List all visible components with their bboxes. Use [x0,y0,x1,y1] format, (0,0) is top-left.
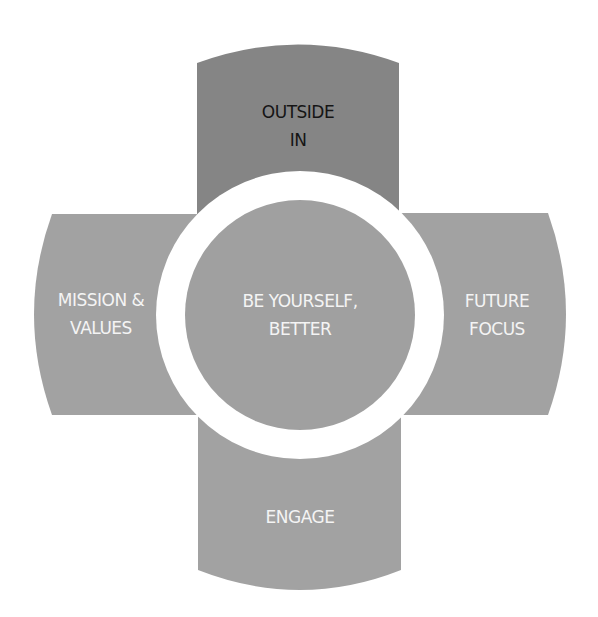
center-circle [185,200,415,430]
arm-top-label-line2: IN [290,130,307,150]
arm-top-label-line1: OUTSIDE [262,102,334,122]
arm-right-label-line2: FOCUS [469,319,525,339]
center-label-line1: BE YOURSELF, [242,291,357,311]
arm-left-label-line1: MISSION & [58,290,145,310]
center-label-line2: BETTER [269,319,332,339]
arm-right-label-line1: FUTURE [465,291,530,311]
arm-left-label-line2: VALUES [70,318,132,338]
cross-diagram: OUTSIDE IN MISSION & VALUES FUTURE FOCUS… [0,0,598,617]
arm-bottom-label: ENGAGE [266,507,335,527]
